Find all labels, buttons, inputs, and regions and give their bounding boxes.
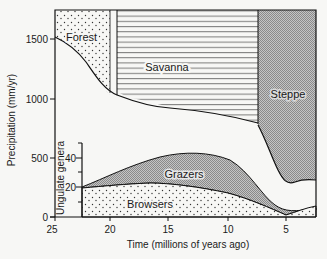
y2-axis-label: Ungulate genera bbox=[55, 141, 66, 215]
x-axis-label: Time (millions of years ago) bbox=[127, 239, 249, 250]
x-tick-10: 10 bbox=[222, 224, 234, 235]
label-savanna: Savanna bbox=[145, 61, 189, 73]
forest-region bbox=[55, 10, 110, 95]
y2-tick-40: 40 bbox=[65, 153, 77, 164]
y-tick-500: 500 bbox=[31, 153, 48, 164]
label-forest: Forest bbox=[66, 31, 97, 43]
label-browsers: Browsers bbox=[127, 198, 173, 210]
x-tick-15: 15 bbox=[162, 224, 174, 235]
y-tick-0: 0 bbox=[42, 212, 48, 223]
x-tick-5: 5 bbox=[283, 224, 289, 235]
x-tick-20: 20 bbox=[104, 224, 116, 235]
y-axis-label: Precipitation (mm/yr) bbox=[6, 74, 17, 166]
label-grazers: Grazers bbox=[164, 168, 204, 180]
y-tick-1500: 1500 bbox=[26, 34, 49, 45]
y-tick-1000: 1000 bbox=[26, 94, 49, 105]
x-tick-25: 25 bbox=[46, 224, 58, 235]
chart: Forest Savanna Steppe Grazers Browsers 1… bbox=[0, 0, 327, 259]
y2-tick-20: 20 bbox=[65, 182, 77, 193]
label-steppe: Steppe bbox=[271, 88, 306, 100]
